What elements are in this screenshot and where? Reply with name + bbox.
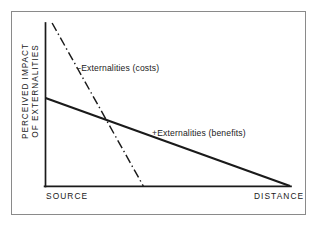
y-axis-title-line1: PERCEIVED IMPACT xyxy=(22,43,30,139)
series-line-benefits xyxy=(46,98,291,186)
x-axis-label-source: SOURCE xyxy=(46,192,88,200)
y-axis-title: PERCEIVED IMPACT OF EXTERNALITIES xyxy=(18,36,44,146)
series-label-benefits: +Externalities (benefits) xyxy=(152,129,246,138)
x-axis-label-distance: DISTANCE xyxy=(254,192,304,200)
y-axis-title-line2: OF EXTERNALITIES xyxy=(32,44,40,137)
series-label-costs: −Externalities (costs) xyxy=(76,64,159,73)
figure-root: −Externalities (costs) +Externalities (b… xyxy=(0,0,321,230)
